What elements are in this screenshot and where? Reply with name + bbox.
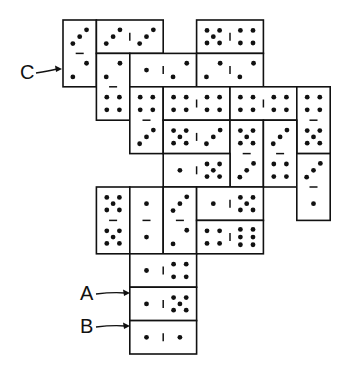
pip [144, 201, 149, 206]
pip [184, 295, 189, 300]
domino-d7 [130, 87, 163, 154]
pip [117, 241, 122, 246]
pip [251, 208, 256, 213]
pip [251, 107, 256, 112]
pip [211, 135, 216, 140]
pip [251, 195, 256, 200]
pip [238, 141, 243, 146]
pip [184, 194, 189, 199]
pip [205, 228, 210, 233]
pip [251, 141, 256, 146]
pip [217, 41, 222, 46]
pip [204, 141, 209, 146]
pip [205, 95, 210, 100]
pip [284, 162, 289, 167]
pip [311, 135, 316, 140]
pip [178, 201, 183, 206]
pip [144, 302, 149, 307]
pip [205, 28, 210, 33]
domino-d9 [230, 87, 297, 120]
pip [211, 201, 216, 206]
pip [184, 274, 189, 279]
arrow-icon [96, 293, 125, 294]
pip [271, 174, 276, 179]
pip [271, 162, 276, 167]
pip [251, 242, 256, 247]
pip [217, 162, 222, 167]
pip [238, 227, 243, 232]
pip [238, 208, 243, 213]
pip [205, 241, 210, 246]
pip [144, 335, 149, 340]
pip [238, 41, 243, 46]
pip [178, 335, 183, 340]
pip [178, 168, 183, 173]
pip [205, 174, 210, 179]
domino-d19 [197, 187, 264, 220]
pip [84, 27, 89, 32]
pip [317, 128, 322, 133]
pip [151, 128, 156, 133]
pip [111, 235, 116, 240]
pip [305, 141, 310, 146]
pip [184, 308, 189, 313]
domino-d8 [163, 87, 230, 120]
pip [117, 95, 122, 100]
pip [178, 302, 183, 307]
pip [211, 34, 216, 39]
domino-d15 [163, 154, 230, 187]
pip [84, 61, 89, 66]
pip [171, 95, 176, 100]
pip [271, 141, 276, 146]
domino-d11 [163, 120, 230, 153]
pip [104, 95, 109, 100]
pip [117, 195, 122, 200]
domino-diagram [0, 0, 343, 376]
domino-d1 [63, 20, 96, 87]
pip [138, 95, 143, 100]
pip [305, 128, 310, 133]
pip [184, 95, 189, 100]
domino-d21 [130, 254, 197, 287]
pip [238, 242, 243, 247]
pip [118, 27, 123, 32]
pip [271, 95, 276, 100]
pip [184, 228, 189, 233]
pip [317, 107, 322, 112]
pip [311, 201, 316, 206]
pip [144, 268, 149, 273]
pip [311, 168, 316, 173]
label-a: A [80, 283, 93, 303]
pip [104, 107, 109, 112]
domino-d6 [197, 53, 264, 86]
pip [70, 75, 75, 80]
pip [138, 107, 143, 112]
pip [171, 141, 176, 146]
pip [117, 208, 122, 213]
pip [238, 195, 243, 200]
pip [218, 61, 223, 66]
pip [304, 175, 309, 180]
pip [117, 228, 122, 233]
pip [118, 61, 123, 66]
pip [305, 95, 310, 100]
pip [305, 107, 310, 112]
domino-d2 [96, 20, 163, 53]
pip [137, 141, 142, 146]
pip [104, 228, 109, 233]
domino-d20 [197, 220, 264, 253]
arrow-icon [96, 326, 125, 327]
domino-d13 [263, 120, 296, 187]
label-c: C [20, 62, 34, 82]
pip [285, 128, 290, 133]
pip [104, 41, 109, 46]
domino-d14 [297, 154, 330, 221]
pip [237, 75, 242, 80]
pip [111, 201, 116, 206]
pip [217, 107, 222, 112]
pip [251, 235, 256, 240]
pip [284, 107, 289, 112]
domino-d10 [297, 87, 330, 154]
pip [171, 295, 176, 300]
domino-d18 [163, 187, 196, 254]
